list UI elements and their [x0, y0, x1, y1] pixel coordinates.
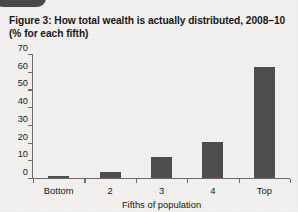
x-axis-tick-mark — [239, 179, 240, 183]
y-axis-tick-label: 0 — [23, 167, 28, 177]
x-axis-tick-label: 3 — [159, 185, 164, 196]
bar — [48, 176, 69, 178]
bar — [254, 67, 275, 178]
bar — [151, 157, 172, 178]
x-axis-tick-label: 2 — [107, 185, 112, 196]
y-axis-tick-label: 60 — [18, 61, 28, 71]
bar-series — [33, 54, 290, 178]
y-axis-tick-label: 10 — [18, 149, 28, 159]
page-corner-tab-icon — [0, 0, 46, 7]
x-axis-tick-mark — [136, 179, 137, 183]
x-axis-tick-label: 4 — [210, 185, 215, 196]
y-axis-tick-label: 40 — [18, 96, 28, 106]
x-axis-tick-labels: Bottom234Top — [33, 185, 290, 199]
x-axis-tick-mark — [187, 179, 188, 183]
bar — [100, 172, 121, 178]
figure-title-line-1: Figure 3: How total wealth is actually d… — [9, 14, 292, 27]
figure-page: Figure 3: How total wealth is actually d… — [0, 0, 298, 212]
figure-title: Figure 3: How total wealth is actually d… — [9, 14, 292, 41]
y-axis-tick-labels: 010203040506070 — [6, 48, 28, 180]
x-axis-tick-label: Top — [257, 185, 272, 196]
bar-chart: 010203040506070 Bottom234Top Fifths of p… — [0, 48, 298, 212]
x-axis-tick-mark — [33, 179, 34, 183]
x-axis-tick-mark — [290, 179, 291, 183]
y-axis-tick-label: 70 — [18, 43, 28, 53]
y-axis-tick-label: 50 — [18, 78, 28, 88]
x-axis-tick-label: Bottom — [44, 185, 74, 196]
x-axis-title: Fifths of population — [33, 199, 290, 210]
x-axis-line — [32, 178, 290, 179]
bar — [202, 142, 223, 178]
y-axis-tick-label: 20 — [18, 132, 28, 142]
y-axis-tick-label: 30 — [18, 114, 28, 124]
x-axis-tick-mark — [84, 179, 85, 183]
figure-title-line-2: (% for each fifth) — [9, 27, 292, 40]
